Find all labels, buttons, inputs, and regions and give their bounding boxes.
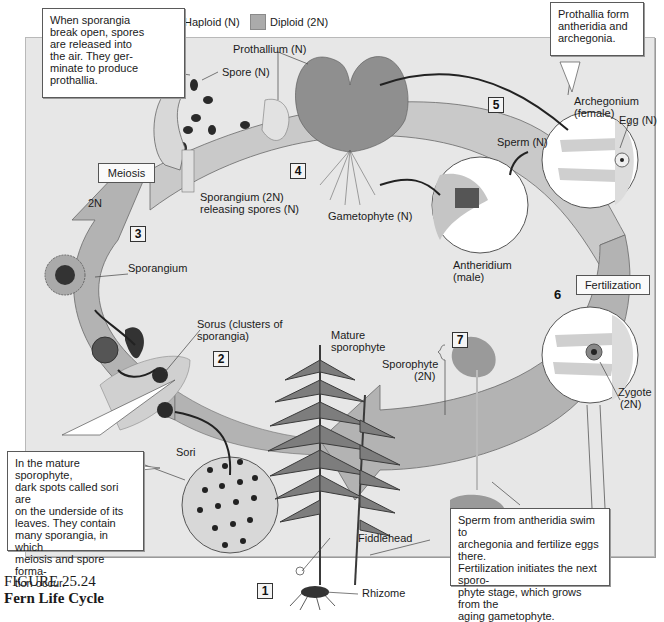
figure-number: FIGURE 25.24 [4,573,104,590]
diploid-band-bottom [175,390,340,455]
callout-prothallia-form: Prothallia form antheridia and archegoni… [550,2,644,56]
label-fiddlehead: Fiddlehead [358,532,412,544]
callout-line: Fertilization initiates the next sporo- [458,562,602,586]
callout-line: prothallia. [50,74,177,86]
label-archegonium-1: Archegonium [574,95,639,107]
step-7-badge: 7 [452,332,468,348]
label-two-n: 2N [88,197,102,209]
label-zygote-1: Zygote [618,386,652,398]
label-sporophyte-1: Sporophyte [382,358,438,370]
legend-diploid: Diploid (2N) [250,14,328,30]
callout-line: archegonia and fertilize eggs there. [458,538,602,562]
figure-caption: FIGURE 25.24 Fern Life Cycle [4,573,104,607]
callout-line: break open, spores [50,26,177,38]
callout-line: many sporangia, in which [15,529,136,553]
callout-line: aging gametophyte. [458,610,602,622]
step-3-badge: 3 [130,226,146,242]
label-sori: Sori [176,446,196,458]
step-6-label: 6 [554,287,561,302]
callout-line: Prothallia form [558,8,636,20]
label-antheridium-1: Antheridium [453,259,512,271]
callout-line: are released into [50,38,177,50]
meiosis-tag: Meiosis [98,163,155,183]
label-egg: Egg (N) [619,114,657,126]
label-sporangium: Sporangium [128,262,187,274]
label-gametophyte: Gametophyte (N) [328,210,412,222]
label-sperm: Sperm (N) [497,136,548,148]
callout-line: minate to produce [50,62,177,74]
callout-line: leaves. They contain [15,517,136,529]
label-spore: Spore (N) [222,66,270,78]
callout-line: on the underside of its [15,505,136,517]
callout-line: antheridia and [558,20,636,32]
label-mature-sporophyte-2: sporophyte [331,341,385,353]
callout-spores-released: When sporangia break open, spores are re… [42,8,185,98]
callout-line: dark spots called sori are [15,481,136,505]
label-sporophyte-2: (2N) [414,370,435,382]
callout-line: phyte stage, which grows from the [458,586,602,610]
label-zygote-2: (2N) [620,398,641,410]
label-mature-sporophyte-1: Mature [331,329,365,341]
label-prothallium: Prothallium (N) [233,43,306,55]
label-sorus-2: sporangia) [197,330,249,342]
legend-haploid-label: Haploid (N) [184,16,240,28]
figure-title: Fern Life Cycle [4,590,104,607]
callout-mature-sporophyte: In the mature sporophyte, dark spots cal… [7,451,144,551]
callout-line: Sperm from antheridia swim to [458,514,602,538]
callout-line: archegonia. [558,32,636,44]
callout-fertilization: Sperm from antheridia swim to archegonia… [450,508,610,586]
label-sporangium-releasing-2: releasing spores (N) [200,203,299,215]
step-4-badge: 4 [290,163,306,179]
diploid-swatch [250,14,266,30]
fertilization-tag: Fertilization [576,275,650,295]
callout-line: In the mature sporophyte, [15,457,136,481]
step-2-badge: 2 [213,351,229,367]
callout-line: When sporangia [50,14,177,26]
label-sorus-1: Sorus (clusters of [197,318,283,330]
step-1-badge: 1 [257,583,273,599]
label-rhizome: Rhizome [362,587,405,599]
label-antheridium-2: (male) [453,271,484,283]
label-archegonium-2: (female) [574,107,614,119]
label-sporangium-releasing-1: Sporangium (2N) [200,191,284,203]
callout-line: the air. They ger- [50,50,177,62]
legend-diploid-label: Diploid (2N) [270,16,328,28]
step-5-badge: 5 [488,97,504,113]
